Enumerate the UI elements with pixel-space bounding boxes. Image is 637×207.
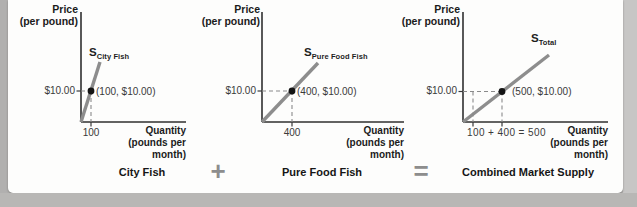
combined-x-axis-label: Quantity (pounds per month) <box>550 125 608 161</box>
pure-food-fish-point-label: (400, $10.00) <box>297 86 357 97</box>
city-fish-qty-tick-label: 100 <box>71 127 111 138</box>
combined-point-label: (500, $10.00) <box>512 86 572 97</box>
pure-food-fish-y-axis-label: Price (per pound) <box>202 4 260 27</box>
combined-supply-label-sub: Total <box>539 38 557 47</box>
pure-food-fish-title: Pure Food Fish <box>247 166 397 178</box>
equals-operator: = <box>406 158 436 184</box>
pure-food-fish-x-axis-label-line3: month) <box>346 149 404 161</box>
city-fish-title: City Fish <box>67 166 217 178</box>
city-fish-x-axis-label: Quantity (pounds per month) <box>128 125 186 161</box>
plus-operator: + <box>203 158 233 184</box>
combined-qty-tick-label: 100 + 400 = 500 <box>467 127 546 138</box>
city-fish-x-axis-label-line1: Quantity <box>128 125 186 137</box>
city-fish-x-axis-label-line3: month) <box>128 149 186 161</box>
combined-title: Combined Market Supply <box>438 166 618 178</box>
combined-y-axis-label-line2: (per pound) <box>402 16 460 28</box>
combined-y-axis-label-line1: Price <box>402 4 460 16</box>
pure-food-fish-price-tick-label: $10.00 <box>225 85 256 96</box>
combined-price-tick-label: $10.00 <box>426 85 457 96</box>
combined-x-axis-label-line3: month) <box>550 149 608 161</box>
city-fish-plot <box>77 12 187 127</box>
city-fish-supply-label-main: S <box>89 46 97 58</box>
combined-supply-plot <box>459 12 609 127</box>
pure-food-fish-x-axis-label: Quantity (pounds per month) <box>346 125 404 161</box>
pure-food-fish-point <box>289 88 296 95</box>
city-fish-y-axis-label: Price (per pound) <box>20 4 78 27</box>
city-fish-price-tick-label: $10.00 <box>44 85 75 96</box>
pure-food-fish-y-axis-label-line1: Price <box>202 4 260 16</box>
city-fish-y-axis-label-line1: Price <box>20 4 78 16</box>
combined-x-axis-label-line1: Quantity <box>550 125 608 137</box>
pure-food-fish-x-axis-label-line1: Quantity <box>346 125 404 137</box>
city-fish-supply-label-sub: City Fish <box>97 52 130 61</box>
pure-food-fish-supply-label: SPure Food Fish <box>304 46 368 61</box>
combined-point <box>499 88 506 95</box>
combined-x-axis-label-line2: (pounds per <box>550 137 608 149</box>
combined-supply-label: STotal <box>531 32 557 47</box>
city-fish-x-axis-label-line2: (pounds per <box>128 137 186 149</box>
figure-canvas: Price (per pound) $10.00 SCity Fish (100… <box>0 0 637 207</box>
city-fish-point <box>88 88 95 95</box>
combined-y-axis-label: Price (per pound) <box>402 4 460 27</box>
pure-food-fish-supply-label-sub: Pure Food Fish <box>312 52 368 61</box>
pure-food-fish-y-axis-label-line2: (per pound) <box>202 16 260 28</box>
pure-food-fish-qty-tick-label: 400 <box>272 127 312 138</box>
pure-food-fish-supply-label-main: S <box>304 46 312 58</box>
pure-food-fish-plot <box>258 12 405 127</box>
city-fish-point-label: (100, $10.00) <box>96 86 156 97</box>
combined-supply-label-main: S <box>531 32 539 44</box>
city-fish-y-axis-label-line2: (per pound) <box>20 16 78 28</box>
pure-food-fish-x-axis-label-line2: (pounds per <box>346 137 404 149</box>
city-fish-supply-label: SCity Fish <box>89 46 129 61</box>
